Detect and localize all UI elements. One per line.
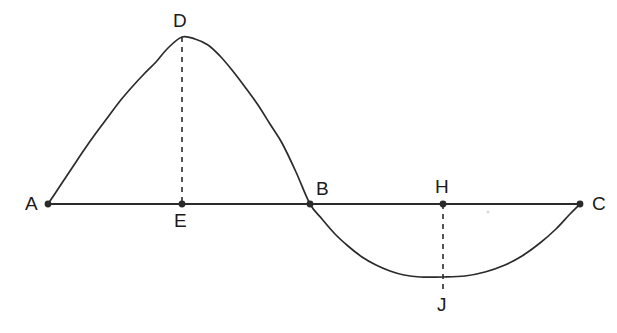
point-label-j: J: [437, 295, 447, 314]
figure-root: A D E B H J C: [0, 0, 617, 333]
point-label-d: D: [173, 11, 187, 30]
point-label-a: A: [25, 194, 38, 213]
dashed-lines-group: [182, 37, 443, 290]
sine-wave-diagram: [0, 0, 617, 333]
point-dot-e: [179, 201, 186, 208]
curve-group: [48, 36, 580, 277]
speck-artifact: [487, 211, 490, 214]
point-label-c: C: [592, 194, 606, 213]
sine-curve-path: [48, 36, 580, 277]
point-dot-h: [440, 201, 447, 208]
point-label-e: E: [174, 211, 187, 230]
point-dot-a: [45, 201, 52, 208]
point-dot-c: [577, 201, 584, 208]
point-label-h: H: [435, 177, 449, 196]
point-label-b: B: [316, 179, 329, 198]
point-dot-b: [307, 201, 314, 208]
